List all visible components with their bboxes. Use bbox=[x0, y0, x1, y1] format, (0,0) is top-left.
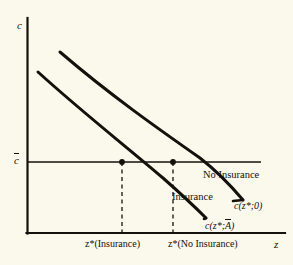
plot-canvas bbox=[0, 0, 293, 265]
economics-figure: c z c No Insurance Insurance c(z*;0) c(z… bbox=[0, 0, 293, 265]
cbar-overbar-text: c bbox=[14, 155, 19, 166]
cbar-axis-label: c bbox=[14, 155, 19, 166]
curve-label-insurance-arg: A bbox=[225, 221, 231, 231]
curve-label-insurance-suffix: ) bbox=[231, 220, 234, 231]
curve-label-insurance: c(z*;A) bbox=[205, 221, 234, 231]
intersection-dot-insurance bbox=[119, 159, 125, 165]
curve-label-no-insurance: c(z*;0) bbox=[234, 201, 262, 211]
curve-label-insurance-prefix: c(z*; bbox=[205, 220, 225, 231]
leader-curve-insurance bbox=[204, 218, 206, 219]
insurance-annotation: Insurance bbox=[172, 192, 213, 203]
y-axis-label: c bbox=[17, 20, 22, 31]
intersection-dot-no-insurance bbox=[170, 159, 176, 165]
no-insurance-annotation: No Insurance bbox=[203, 170, 259, 181]
x-axis-label: z bbox=[274, 239, 278, 250]
x-tick-label-insurance: z*(Insurance) bbox=[85, 239, 140, 249]
x-tick-label-no-insurance: z*(No Insurance) bbox=[168, 239, 238, 249]
